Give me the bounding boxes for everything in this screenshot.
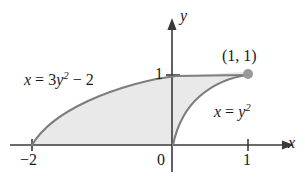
tick-label-x-one: 1 <box>243 152 251 168</box>
curve-label-left-lhs: x <box>24 71 31 88</box>
intersection-point-marker <box>243 69 253 79</box>
curve-label-left-constant: 2 <box>86 71 94 88</box>
curve-label-left-coefficient: 3 <box>48 71 56 88</box>
curve-label-right-lhs: x <box>214 103 221 120</box>
tick-label-origin: 0 <box>157 152 165 168</box>
tick-label-y-one: 1 <box>155 66 163 82</box>
curve-label-left: x = 3y2 − 2 <box>24 72 94 88</box>
tick-label-x-neg2: −2 <box>20 152 37 168</box>
y-axis-label: y <box>180 8 187 24</box>
curve-label-right-equals: = <box>225 103 234 120</box>
x-axis-label: x <box>288 135 295 151</box>
curve-label-right: x = y2 <box>214 104 251 120</box>
math-figure: x = 3y2 − 2 x = y2 (1, 1) y x −2 0 1 1 <box>0 0 305 188</box>
figure-canvas <box>0 0 305 188</box>
curve-label-left-minus: − <box>73 71 82 88</box>
y-axis-arrowhead <box>167 18 176 30</box>
curve-label-left-equals: = <box>35 71 44 88</box>
intersection-point-label: (1, 1) <box>222 48 257 64</box>
curve-label-right-exponent: 2 <box>245 101 250 113</box>
curve-label-left-exponent: 2 <box>63 69 68 81</box>
